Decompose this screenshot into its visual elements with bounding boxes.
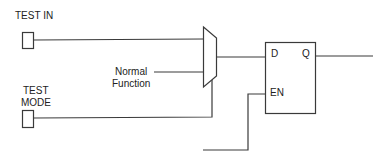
flip-flop-q-pin: Q	[302, 48, 310, 59]
test-mode-label-line2: MODE	[21, 97, 51, 108]
test-mode-pin	[23, 111, 34, 128]
schematic-canvas: TEST IN Normal Function TEST MODE D Q EN	[0, 0, 391, 159]
flip-flop-d-pin: D	[271, 48, 278, 59]
flip-flop-en-pin: EN	[270, 87, 284, 98]
mux	[204, 27, 217, 87]
normal-function-label-line1: Normal	[115, 66, 147, 77]
normal-function-label-line2: Function	[112, 78, 150, 89]
test-in-wire	[34, 39, 203, 40]
test-mode-label-line1: TEST	[23, 85, 49, 96]
test-in-pin	[23, 33, 34, 49]
test-in-label: TEST IN	[15, 10, 53, 21]
